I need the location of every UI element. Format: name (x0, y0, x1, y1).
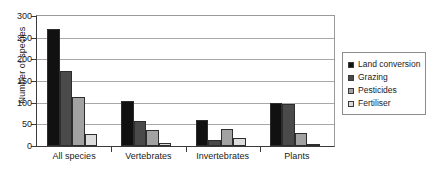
legend-item[interactable]: Grazing (348, 71, 425, 84)
bar (307, 144, 320, 146)
bar (72, 97, 85, 146)
legend-item[interactable]: Land conversion (348, 58, 425, 71)
y-tick-label: 100 (0, 98, 32, 108)
y-tick-label: 50 (0, 119, 32, 129)
y-tick-label: 0 (0, 141, 32, 151)
bars-layer (37, 16, 334, 146)
bar-group (121, 16, 171, 146)
x-tick-mark (186, 147, 187, 152)
y-tick-label: 200 (0, 54, 32, 64)
legend-item[interactable]: Fertiliser (348, 97, 425, 110)
legend-label: Fertiliser (358, 99, 391, 108)
y-tick-label: 300 (0, 11, 32, 21)
bar (134, 121, 147, 146)
bar-group (270, 16, 320, 146)
bar-group (47, 16, 97, 146)
x-tick-label: Plants (284, 151, 309, 161)
legend-swatch-icon (348, 88, 354, 94)
bar (47, 29, 60, 146)
bar-group (196, 16, 246, 146)
legend-item[interactable]: Pesticides (348, 84, 425, 97)
bar (159, 143, 172, 146)
bar-chart: Number of species 050100150200250300 All… (0, 0, 433, 173)
legend: Land conversionGrazingPesticidesFertilis… (342, 52, 426, 115)
legend-label: Grazing (358, 73, 388, 82)
x-tick-label: Invertebrates (196, 151, 249, 161)
x-tick-label: Vertebrates (125, 151, 171, 161)
legend-label: Pesticides (358, 86, 397, 95)
legend-swatch-icon (348, 62, 354, 68)
bar (295, 133, 308, 146)
bar (146, 130, 159, 146)
x-tick-mark (111, 147, 112, 152)
y-tick-label: 250 (0, 33, 32, 43)
x-tick-label: All species (53, 151, 96, 161)
legend-swatch-icon (348, 75, 354, 81)
bar (221, 129, 234, 146)
bar (121, 101, 134, 147)
legend-swatch-icon (348, 101, 354, 107)
bar (233, 138, 246, 146)
bar (85, 134, 98, 146)
bar (60, 71, 73, 146)
bar (196, 120, 209, 146)
bar (208, 140, 221, 147)
x-tick-mark (260, 147, 261, 152)
legend-label: Land conversion (358, 60, 420, 69)
y-tick-label: 150 (0, 76, 32, 86)
bar (270, 103, 283, 146)
bar (282, 104, 295, 146)
